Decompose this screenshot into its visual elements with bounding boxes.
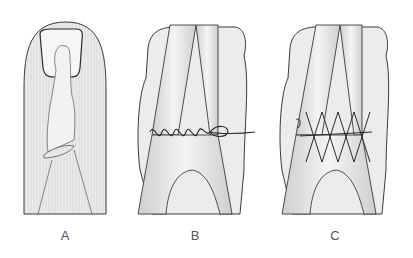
medical-illustration <box>0 0 413 258</box>
panel-label-a: A <box>61 228 70 243</box>
panel-label-b: B <box>191 228 200 243</box>
panel-a-drawing <box>24 22 106 214</box>
panel-c-drawing <box>280 25 389 214</box>
panel-label-c: C <box>330 228 339 243</box>
panel-b-drawing <box>138 25 255 214</box>
